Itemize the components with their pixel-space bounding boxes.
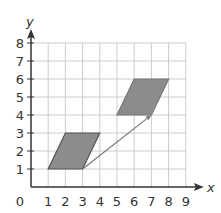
- x-tick-label: 5: [113, 194, 121, 209]
- y-tick-label: 1: [16, 162, 24, 177]
- x-tick-label: 9: [182, 194, 190, 209]
- y-tick-label: 7: [16, 54, 24, 69]
- coordinate-grid-figure: 123456789123456780xy: [0, 0, 221, 213]
- x-tick-label: 4: [96, 194, 104, 209]
- y-tick-label: 2: [16, 144, 24, 159]
- x-tick-label: 7: [147, 194, 155, 209]
- y-axis-label: y: [25, 14, 34, 29]
- shapes: [48, 79, 168, 169]
- origin-label: 0: [16, 194, 24, 209]
- y-tick-label: 3: [16, 126, 24, 141]
- x-tick-label: 2: [61, 194, 69, 209]
- x-tick-label: 6: [130, 194, 138, 209]
- y-tick-label: 4: [16, 108, 24, 123]
- x-axis-label: x: [206, 180, 215, 195]
- y-tick-label: 5: [16, 90, 24, 105]
- x-tick-label: 3: [78, 194, 86, 209]
- y-tick-label: 6: [16, 72, 24, 87]
- x-tick-label: 8: [164, 194, 172, 209]
- x-tick-label: 1: [44, 194, 52, 209]
- y-tick-label: 8: [16, 36, 24, 51]
